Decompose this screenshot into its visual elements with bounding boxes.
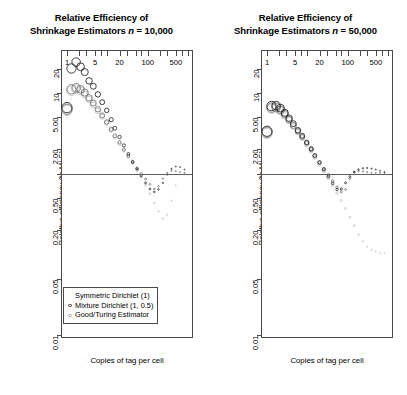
data-point [345, 182, 347, 184]
x-axis-tick [279, 51, 280, 56]
data-point [109, 118, 113, 122]
x-axis-tick [79, 51, 80, 56]
x-axis-tick-label: 20 [305, 58, 335, 67]
data-point [86, 96, 92, 103]
data-point [162, 178, 163, 179]
data-point [384, 253, 385, 254]
data-point [100, 100, 105, 105]
panel-n-10000: Relative Efficiency of Shrinkage Estimat… [0, 0, 203, 395]
y-axis-minor-tick [57, 174, 62, 175]
x-axis-tick [348, 51, 349, 56]
data-point [175, 171, 176, 172]
legend: Symmetric Dirichlet (1) Mixture Dirichle… [63, 287, 158, 324]
data-point [367, 167, 368, 168]
panel-title: Relative Efficiency of Shrinkage Estimat… [204, 12, 407, 37]
x-axis-tick-label: 100 [333, 58, 363, 67]
panel-title-line2-post: = 50,000 [338, 25, 377, 36]
circle-open-icon [66, 292, 74, 300]
x-axis-tick [120, 51, 121, 56]
legend-item: Good/Turing Estimator [66, 310, 153, 320]
x-axis-tick [286, 51, 287, 56]
x-axis-tick-label: 20 [105, 58, 135, 67]
x-axis-tick [301, 51, 302, 56]
data-point [86, 78, 92, 85]
data-point [171, 168, 172, 169]
x-axis-tick [148, 51, 149, 56]
data-point [184, 169, 185, 170]
x-axis-tick [101, 51, 102, 56]
circle-open-icon [66, 302, 74, 310]
data-point [380, 170, 381, 171]
data-point [175, 166, 176, 167]
panel-title-line2: Shrinkage Estimators n = 50,000 [204, 25, 407, 38]
data-point [162, 218, 163, 219]
data-point [104, 108, 108, 113]
data-point [367, 172, 368, 173]
data-point [345, 188, 347, 190]
x-axis-tick-label: 1 [252, 58, 282, 67]
data-point [171, 200, 172, 201]
x-axis-tick [336, 51, 337, 56]
data-point [113, 126, 117, 130]
x-axis-tick-label: 100 [133, 58, 163, 67]
x-axis-tick-label: 1 [52, 58, 82, 67]
x-axis-tick [160, 51, 161, 56]
data-point [340, 188, 342, 190]
data-point [81, 69, 88, 76]
panel-title-line2: Shrinkage Estimators n = 10,000 [0, 25, 203, 38]
data-point [349, 178, 351, 180]
legend-label: Mixture Dirichlet (1, 0.5) [75, 301, 153, 311]
data-point [140, 175, 142, 177]
x-axis-tick [388, 51, 389, 56]
panel-title-line1: Relative Efficiency of [204, 12, 407, 25]
x-axis-tick [176, 51, 177, 56]
data-point [171, 170, 172, 171]
data-point [180, 167, 181, 168]
plot-area: 20105.002.000.500.200.050.01 1520100500 [261, 50, 393, 338]
data-point [90, 83, 96, 89]
x-axis-tick [188, 51, 189, 56]
x-axis-tick [95, 51, 96, 56]
x-axis-tick [136, 51, 137, 56]
data-point [362, 168, 363, 169]
data-point [336, 192, 338, 194]
x-axis-tick [295, 51, 296, 56]
data-point [162, 182, 163, 183]
data-point [180, 172, 181, 173]
data-point [158, 189, 160, 191]
data-point [362, 241, 363, 242]
x-axis-tick [320, 51, 321, 56]
data-point [371, 249, 372, 250]
panel-title-line2-pre: Shrinkage Estimators [234, 25, 332, 36]
x-axis-tick [307, 51, 308, 56]
data-point [153, 191, 155, 193]
data-point [367, 246, 368, 247]
x-axis-tick [67, 51, 68, 56]
data-point [380, 253, 381, 254]
x-axis-tick [360, 51, 361, 56]
reference-line-unity [62, 174, 192, 175]
data-point [349, 176, 351, 178]
figure-caption-clipped [4, 390, 403, 395]
data-point [340, 200, 342, 202]
panel-n-50000: Relative Efficiency of Shrinkage Estimat… [204, 0, 407, 395]
data-point [362, 171, 363, 172]
legend-item: Mixture Dirichlet (1, 0.5) [66, 301, 153, 311]
data-point [262, 126, 272, 136]
data-point [345, 207, 347, 209]
x-axis-tick [86, 51, 87, 56]
data-point [149, 183, 151, 185]
data-point [149, 188, 151, 190]
data-point [158, 186, 160, 188]
x-axis-tick-label: 500 [361, 58, 391, 67]
data-point [375, 169, 376, 170]
panel-title-line1: Relative Efficiency of [0, 12, 203, 25]
data-point [145, 182, 147, 184]
data-point [145, 184, 147, 186]
reference-line-unity [262, 174, 392, 175]
x-axis-tick [141, 51, 142, 56]
x-axis-tick [107, 51, 108, 56]
data-point [353, 225, 355, 227]
x-axis-tick [127, 51, 128, 56]
data-point [167, 214, 168, 215]
